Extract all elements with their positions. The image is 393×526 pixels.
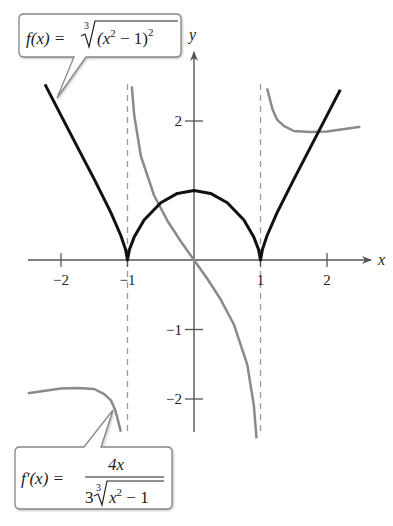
x-axis-label: x xyxy=(377,251,385,268)
callout-fprime-coef: 3 xyxy=(85,488,94,507)
callout-f-bubble xyxy=(19,14,181,98)
x-tick-label: 1 xyxy=(257,272,265,288)
callout-fprime: f′(x) = 4x 3 3 x2 − 1 xyxy=(15,410,172,509)
graph-canvas: x y −2−112 2−1−2 f(x) = 3 (x2 − 1)2 f′(x… xyxy=(0,0,393,526)
callout-f-root-index: 3 xyxy=(84,20,89,31)
y-tick-label: −2 xyxy=(166,391,182,407)
y-axis-label: y xyxy=(187,26,197,44)
function-curve xyxy=(45,84,340,260)
callout-fprime-lhs: f′(x) = xyxy=(21,469,64,488)
x-tick-label: 2 xyxy=(323,272,331,288)
callout-fprime-numerator: 4x xyxy=(108,455,125,474)
callout-fprime-radicand: x2 − 1 xyxy=(108,486,149,507)
callout-fprime-root-index: 3 xyxy=(96,482,101,493)
x-tick-label: −1 xyxy=(120,272,136,288)
y-tick-label: −1 xyxy=(166,322,182,338)
derivative-curve xyxy=(267,88,360,132)
callout-f-formula: f(x) = xyxy=(26,29,65,48)
y-tick-label: 2 xyxy=(175,113,183,129)
axes: x y xyxy=(28,26,385,432)
x-tick-label: −2 xyxy=(53,272,69,288)
callout-f: f(x) = 3 (x2 − 1)2 xyxy=(19,14,181,98)
callout-f-radicand: (x2 − 1)2 xyxy=(97,26,153,48)
